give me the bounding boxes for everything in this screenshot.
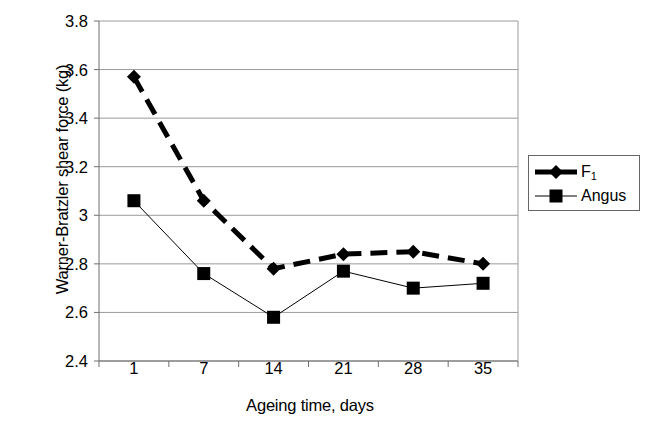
axis-lines [94,21,518,361]
x-axis-tick-label: 21 [321,360,365,377]
data-point-marker [406,245,420,259]
x-axis-tick-label: 1 [112,360,156,377]
data-point-marker [267,311,280,324]
legend-marker [550,190,563,203]
legend-square-icon [533,183,579,209]
legend-label: Angus [581,186,626,206]
data-point-marker [477,277,490,290]
legend-marker [549,165,563,179]
chart-legend: F1Angus [528,155,640,211]
gridlines [99,21,518,361]
data-point-marker [127,194,140,207]
x-axis-tick-label: 7 [182,360,226,377]
legend-item: Angus [529,183,639,209]
x-axis-tick-labels: 1714212835 [98,360,518,386]
x-axis-tick-label: 14 [252,360,296,377]
legend-item: F1 [529,159,639,185]
series-layer [127,70,490,324]
chart-figure: Warner-Bratzler shear force (kg) 3.83.63… [0,0,669,436]
data-point-marker [337,265,350,278]
data-point-marker [336,247,350,261]
x-axis-tick-label: 35 [461,360,505,377]
legend-label: F1 [581,162,597,183]
series-line [134,77,483,269]
data-point-marker [476,257,490,271]
legend-diamond-icon [533,159,579,185]
x-axis-title: Ageing time, days [100,396,520,415]
data-point-marker [407,282,420,295]
data-point-marker [197,267,210,280]
series-f1 [127,70,490,276]
x-axis-tick-label: 28 [391,360,435,377]
